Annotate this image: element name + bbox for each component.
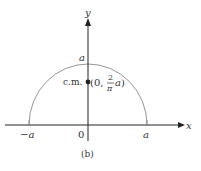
cm-coord-close: )	[121, 77, 125, 88]
top-a-label: a	[79, 52, 85, 63]
origin-label: 0	[78, 129, 84, 140]
x-axis-arrow-icon	[178, 122, 185, 128]
figure-caption: (b)	[81, 149, 94, 159]
neg-a-label: −a	[20, 129, 34, 140]
y-axis-label: y	[84, 7, 91, 18]
y-axis-arrow-icon	[85, 18, 91, 26]
cm-frac-den: π	[106, 84, 113, 93]
pos-a-label: a	[143, 129, 149, 140]
semicircle-diagram: y x a c.m. (0, 2 π a ) −a 0 a (b)	[0, 0, 201, 171]
cm-coord-open: (0,	[90, 77, 103, 88]
x-axis-label: x	[186, 120, 192, 131]
cm-label: c.m.	[63, 77, 82, 87]
cm-frac-num: 2	[108, 73, 113, 82]
